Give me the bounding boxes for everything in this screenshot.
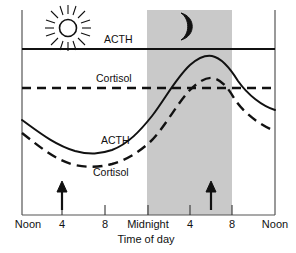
x-tick-label-4am: 4 [180, 218, 200, 230]
acth-curve-label: ACTH [101, 134, 130, 146]
sun-icon [45, 5, 91, 51]
up-arrow-icon-left [57, 181, 67, 210]
cortisol-reference-label: Cortisol [96, 72, 132, 84]
x-tick-label-noon-end: Noon [255, 218, 295, 230]
x-tick-label-midnight: Midnight [112, 218, 184, 230]
circadian-rhythm-figure: ACTH Cortisol ACTH Cortisol Noon 4 8 Mid… [0, 0, 296, 253]
night-shaded-band [147, 10, 232, 215]
x-tick-label-4pm: 4 [52, 218, 72, 230]
acth-reference-label: ACTH [104, 33, 133, 45]
cortisol-curve-label: Cortisol [93, 166, 129, 178]
x-axis-title: Time of day [86, 233, 206, 245]
x-tick-label-noon-start: Noon [8, 218, 48, 230]
x-tick-label-8am: 8 [222, 218, 242, 230]
plot-area [0, 0, 296, 253]
